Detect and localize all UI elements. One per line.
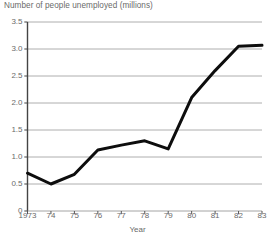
data-series-group [28,45,263,184]
y-tick-label: 3.0 [0,45,23,53]
x-axis-label: Year [0,225,275,234]
unemployment-line-chart: Number of people unemployed (millions) 3… [0,0,275,243]
tick-marks-group [24,22,262,214]
y-tick-label: 1.0 [0,153,23,161]
y-tick-label: 2.5 [0,72,23,80]
y-tick-label: 3.5 [0,18,23,26]
gridlines-group [28,22,263,184]
axes-group [28,22,263,211]
plot-area [0,0,275,243]
y-tick-label: 2.0 [0,99,23,107]
y-tick-label: 1.5 [0,126,23,134]
data-line [28,45,263,184]
y-tick-label: 0.5 [0,180,23,188]
x-tick-label: 83 [248,212,275,220]
